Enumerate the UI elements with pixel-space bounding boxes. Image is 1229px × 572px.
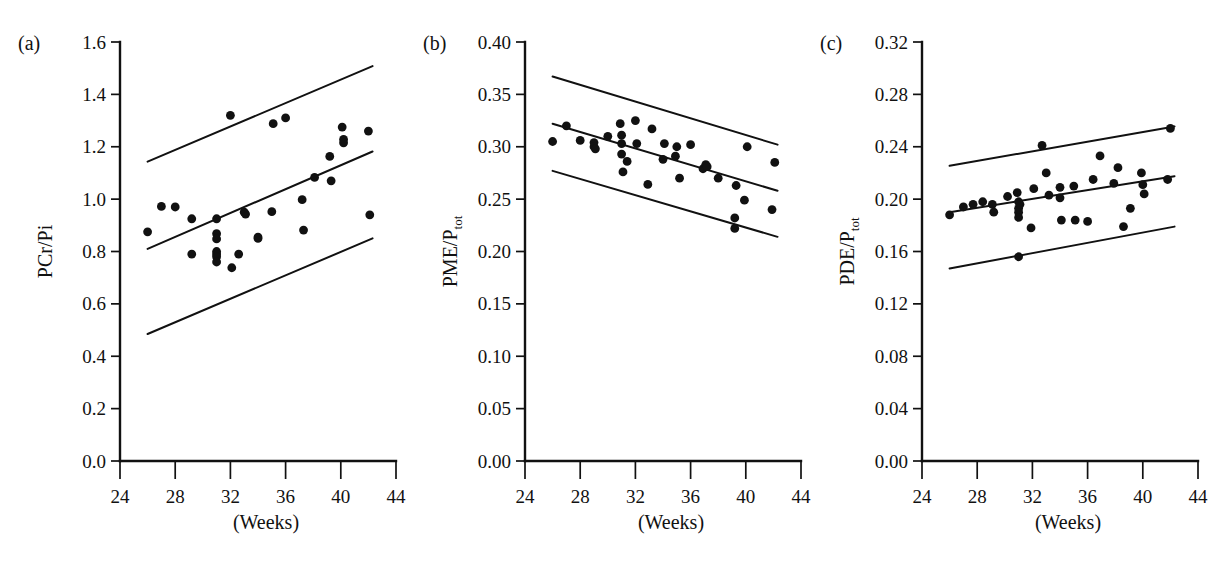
- y-axis-title-group: PDE/Ptot: [836, 217, 862, 286]
- data-point: [672, 142, 681, 151]
- data-point: [339, 138, 348, 147]
- data-point: [1027, 224, 1036, 233]
- data-point: [660, 139, 669, 148]
- y-axis-tick-label: 0.32: [875, 32, 908, 53]
- y-axis-tick-label: 0.24: [875, 136, 909, 157]
- data-point: [1056, 183, 1065, 192]
- y-axis-tick-label: 1.0: [82, 189, 106, 210]
- data-point: [157, 202, 166, 211]
- data-point: [1137, 169, 1146, 178]
- x-axis-tick-label: 24: [111, 486, 131, 507]
- panel-label: (c): [820, 32, 842, 55]
- upper-confidence-band: [950, 126, 1175, 165]
- x-axis-tick-label: 32: [221, 486, 240, 507]
- y-axis-tick-label: 0.00: [478, 451, 511, 472]
- data-point: [1119, 222, 1128, 231]
- y-axis-tick-label: 1.4: [82, 84, 106, 105]
- data-point: [959, 203, 968, 212]
- chart-panel-b: (b)0.000.050.100.150.200.250.300.350.402…: [405, 0, 815, 572]
- data-point: [643, 180, 652, 189]
- y-axis-tick-label: 0.40: [478, 32, 511, 53]
- x-axis-tick-label: 36: [681, 486, 700, 507]
- data-point: [364, 127, 373, 136]
- x-axis-tick-label: 44: [387, 486, 407, 507]
- y-axis-tick-label: 0.20: [478, 241, 511, 262]
- x-axis-tick-label: 36: [276, 486, 295, 507]
- data-point: [365, 210, 374, 219]
- x-axis-tick-label: 32: [626, 486, 645, 507]
- y-axis-tick-label: 0.25: [478, 189, 511, 210]
- data-point: [616, 119, 625, 128]
- data-point: [1109, 179, 1118, 188]
- y-axis-tick-label: 0.35: [478, 84, 511, 105]
- data-point: [591, 144, 600, 153]
- data-point: [1089, 175, 1098, 184]
- y-axis-tick-label: 0.16: [875, 241, 908, 262]
- data-point: [187, 214, 196, 223]
- y-axis-tick-label: 0.04: [875, 398, 909, 419]
- x-axis-tick-label: 36: [1078, 486, 1097, 507]
- data-point: [1138, 180, 1147, 189]
- data-point: [1042, 169, 1051, 178]
- data-point: [1057, 216, 1066, 225]
- data-point: [1069, 182, 1078, 191]
- data-point: [1013, 188, 1022, 197]
- data-point: [576, 136, 585, 145]
- data-point: [945, 210, 954, 219]
- data-point: [978, 197, 987, 206]
- data-point: [969, 200, 978, 209]
- data-point: [1056, 193, 1065, 202]
- data-point: [1166, 124, 1175, 133]
- y-axis-tick-label: 1.6: [82, 32, 106, 53]
- data-point: [1096, 152, 1105, 161]
- data-point: [1038, 141, 1047, 150]
- data-point: [234, 250, 243, 259]
- data-point: [1029, 184, 1038, 193]
- data-point: [327, 176, 336, 185]
- x-axis-tick-label: 28: [166, 486, 185, 507]
- data-point: [310, 173, 319, 182]
- chart-svg: (b)0.000.050.100.150.200.250.300.350.402…: [405, 0, 815, 572]
- y-axis-title-group: PCr/Pi: [34, 224, 56, 278]
- y-axis-tick-label: 0.30: [478, 136, 511, 157]
- chart-panel-c: (c)0.000.040.080.120.160.200.240.280.322…: [802, 0, 1212, 572]
- data-point: [617, 139, 626, 148]
- y-axis-title-group: PME/Ptot: [439, 215, 465, 287]
- upper-confidence-band: [148, 66, 373, 162]
- data-point: [143, 227, 152, 236]
- x-axis-tick-label: 24: [516, 486, 536, 507]
- y-axis-title-subscript: tot: [450, 215, 465, 229]
- data-point: [617, 131, 626, 140]
- data-point: [212, 258, 221, 267]
- data-point: [730, 214, 739, 223]
- data-point: [671, 152, 680, 161]
- data-point: [703, 162, 712, 171]
- y-axis-tick-label: 1.2: [82, 136, 106, 157]
- y-axis-tick-label: 0.2: [82, 398, 106, 419]
- data-point: [1014, 213, 1023, 222]
- y-axis-tick-label: 0.12: [875, 293, 908, 314]
- chart-panel-a: (a)0.00.20.40.60.81.01.21.41.62428323640…: [0, 0, 410, 572]
- data-point: [989, 208, 998, 217]
- y-axis-tick-label: 0.00: [875, 451, 908, 472]
- data-point: [171, 203, 180, 212]
- y-axis-title: PCr/Pi: [34, 224, 56, 278]
- data-point: [714, 174, 723, 183]
- data-point: [770, 158, 779, 167]
- data-point: [299, 226, 308, 235]
- data-point: [617, 150, 626, 159]
- data-point: [740, 196, 749, 205]
- data-point: [632, 139, 641, 148]
- figure-container: (a)0.00.20.40.60.81.01.21.41.62428323640…: [0, 0, 1229, 572]
- data-point: [1003, 192, 1012, 201]
- y-axis-tick-label: 0.05: [478, 398, 511, 419]
- y-axis-title: PDE/Ptot: [836, 217, 862, 286]
- data-point: [212, 214, 221, 223]
- panel-label: (a): [18, 32, 40, 55]
- data-point: [281, 114, 290, 123]
- x-axis-title: (Weeks): [233, 511, 299, 534]
- y-axis-tick-label: 0.20: [875, 189, 908, 210]
- y-axis-tick-label: 0.8: [82, 241, 106, 262]
- data-point: [548, 137, 557, 146]
- y-axis-tick-label: 0.08: [875, 346, 908, 367]
